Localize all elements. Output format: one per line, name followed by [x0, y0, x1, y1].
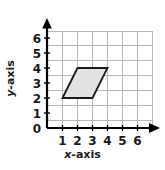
- plot-canvas: 6 5 4 3 2 1 0 1 2 3 4 5 6: [0, 0, 165, 170]
- x-axis-title: x-axis: [0, 148, 165, 161]
- x-tick-label: 5: [118, 134, 126, 148]
- y-axis-title-rest: -axis: [4, 60, 17, 89]
- x-axis-tick-labels: 1 2 3 4 5 6: [58, 134, 141, 148]
- y-tick-label: 4: [33, 62, 41, 76]
- y-axis-tick-labels: 6 5 4 3 2 1 0: [33, 32, 41, 137]
- x-tick-label: 1: [58, 134, 66, 148]
- y-tick-label: 6: [33, 32, 41, 46]
- x-tick-label: 6: [133, 134, 141, 148]
- x-axis-line: [47, 123, 160, 133]
- x-tick-label: 3: [88, 134, 96, 148]
- x-tick-label: 2: [73, 134, 81, 148]
- y-axis-line: [42, 18, 52, 128]
- x-axis-title-rest: -axis: [71, 148, 100, 161]
- parallelogram-shape: [63, 68, 108, 98]
- origin-label: 0: [33, 122, 41, 136]
- x-tick-label: 4: [103, 134, 111, 148]
- y-tick-label: 5: [33, 47, 41, 61]
- y-tick-label: 1: [33, 107, 41, 121]
- y-axis-title: y-axis: [4, 51, 17, 107]
- y-axis-title-italic: y: [4, 90, 17, 97]
- y-tick-label: 3: [33, 77, 41, 91]
- y-tick-label: 2: [33, 92, 41, 106]
- coordinate-grid-figure: 6 5 4 3 2 1 0 1 2 3 4 5 6 x-axis y-axis: [0, 0, 165, 170]
